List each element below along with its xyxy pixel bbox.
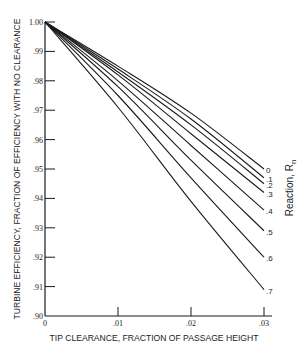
curve-reaction-5	[45, 22, 264, 231]
x-ticks: 0.01.02.03	[43, 307, 269, 328]
y-tick-label: .94	[33, 194, 43, 203]
y-tick-label: .98	[33, 77, 43, 86]
curve-label: .2	[266, 181, 273, 190]
chart: .90.91.92.93.94.95.96.97.98.991.00 0.01.…	[0, 0, 307, 357]
curve-label: .6	[266, 254, 273, 263]
x-tick-label: 0	[43, 319, 47, 328]
y-tick-label: .93	[33, 224, 43, 233]
x-tick-label: .03	[259, 319, 269, 328]
curve-reaction-7	[45, 22, 264, 290]
y-tick-label: .95	[33, 165, 43, 174]
curve-label: .5	[266, 228, 273, 237]
y-tick-label: .90	[33, 312, 43, 321]
legend-title-text: Reaction, R	[284, 164, 295, 216]
curve-reaction-2	[45, 22, 264, 184]
legend-title-subscript: n	[289, 160, 298, 164]
curve-label: 0	[266, 166, 271, 175]
x-tick-label: .01	[113, 319, 123, 328]
y-tick-label: .92	[33, 253, 43, 262]
y-axis-title: TURBINE EFFICIENCY, FRACTION OF EFFICIEN…	[12, 18, 22, 319]
curve-label: .4	[266, 207, 273, 216]
x-tick-label: .02	[186, 319, 196, 328]
curve-label: .3	[266, 190, 273, 199]
y-tick-label: 1.00	[29, 18, 43, 27]
curve-reaction-6	[45, 22, 264, 257]
axes	[45, 22, 272, 316]
curves	[45, 22, 264, 290]
y-tick-label: .99	[33, 47, 43, 56]
y-tick-label: .97	[33, 106, 43, 115]
y-ticks: .90.91.92.93.94.95.96.97.98.991.00	[29, 18, 55, 321]
y-tick-label: .96	[33, 136, 43, 145]
curve-labels: 0.1.2.3.4.5.6.7	[266, 166, 273, 296]
x-axis-title: TIP CLEARANCE, FRACTION OF PASSAGE HEIGH…	[50, 333, 260, 343]
legend-title: Reaction, Rn	[284, 160, 298, 217]
y-tick-label: .91	[33, 283, 43, 292]
curve-label: .7	[266, 287, 273, 296]
